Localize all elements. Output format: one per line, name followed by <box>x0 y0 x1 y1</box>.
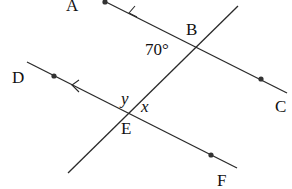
label-a: A <box>66 0 79 15</box>
point-d-dot <box>51 73 56 78</box>
label-e: E <box>121 119 131 138</box>
line-df <box>27 62 237 168</box>
label-b: B <box>186 20 197 39</box>
label-d: D <box>12 68 24 87</box>
label-c: C <box>275 97 286 116</box>
angle-x-label: x <box>140 97 149 116</box>
point-a-dot <box>102 0 107 5</box>
parallel-arrow-icon-ac <box>129 6 137 17</box>
transversal-line <box>68 6 238 173</box>
point-f-dot <box>208 152 213 157</box>
angle-70-label: 70° <box>145 40 169 59</box>
angle-y-label: y <box>119 89 129 108</box>
point-c-dot <box>258 76 263 81</box>
label-f: F <box>217 171 226 189</box>
diagram-canvas: A B C D E F 70° y x <box>0 0 292 189</box>
